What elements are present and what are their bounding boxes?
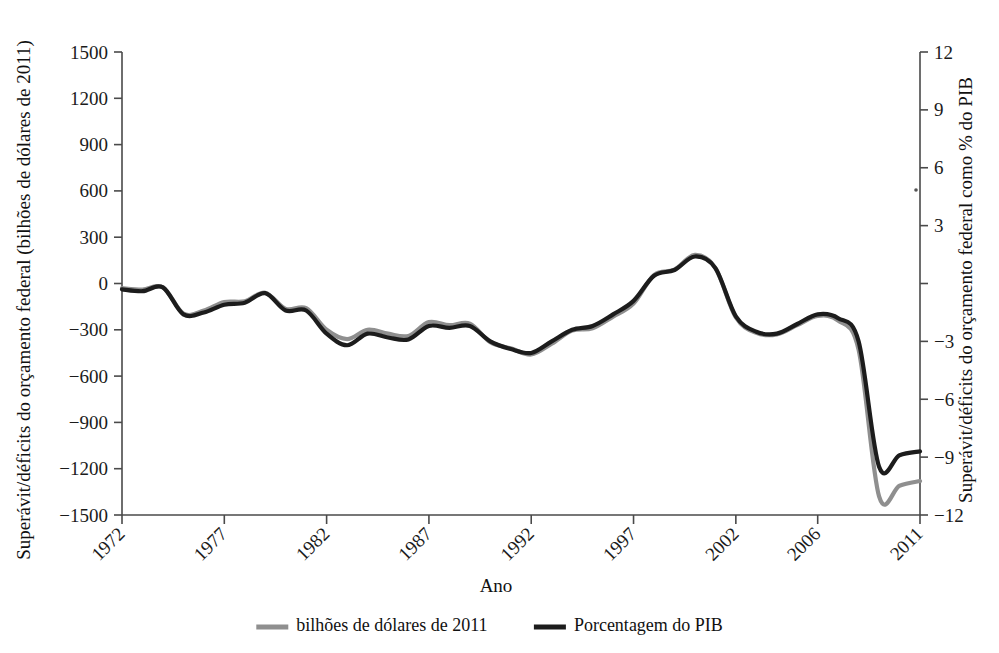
right-tick-label: −12 xyxy=(934,505,964,526)
left-tick-label: −300 xyxy=(69,319,108,340)
right-tick-label: 9 xyxy=(934,99,944,120)
right-axis-title: Superávit/déficits do orçamento federal … xyxy=(955,77,976,503)
x-tick-label: 2006 xyxy=(783,523,825,565)
legend-label-1: Porcentagem do PIB xyxy=(574,615,723,635)
left-tick-label: 900 xyxy=(80,134,109,155)
line-chart: 150012009006003000−300−600−900−1200−1500… xyxy=(0,0,999,653)
left-tick-label: 0 xyxy=(99,273,109,294)
x-tick-label: 2002 xyxy=(701,523,743,565)
x-tick-label: 1997 xyxy=(599,523,641,565)
series-group xyxy=(122,255,920,505)
figure-container: 150012009006003000−300−600−900−1200−1500… xyxy=(0,0,999,653)
x-axis-ticks: 197219771982198719921997200220062011 xyxy=(87,515,927,565)
left-tick-label: 1500 xyxy=(70,42,108,63)
right-tick-label: −6 xyxy=(934,389,954,410)
left-tick-label: −1200 xyxy=(59,458,108,479)
series-line-0 xyxy=(122,255,920,505)
right-tick-label: −3 xyxy=(934,331,954,352)
left-tick-label: 1200 xyxy=(70,88,108,109)
left-tick-label: −1500 xyxy=(59,505,108,526)
left-axis-title: Superávit/déficits do orçamento federal … xyxy=(13,40,35,560)
right-tick-label: 12 xyxy=(934,42,953,63)
speck-artifact xyxy=(914,188,918,192)
x-tick-label: 1987 xyxy=(394,523,436,565)
legend-label-0: bilhões de dólares de 2011 xyxy=(296,615,487,635)
axes-group xyxy=(122,52,920,515)
x-tick-label: 1972 xyxy=(87,523,129,565)
left-axis-ticks: 150012009006003000−300−600−900−1200−1500 xyxy=(59,42,122,526)
series-line-1 xyxy=(122,256,920,473)
chart-legend: bilhões de dólares de 2011Porcentagem do… xyxy=(256,615,723,635)
left-tick-label: −600 xyxy=(69,366,108,387)
x-tick-label: 1982 xyxy=(292,523,334,565)
left-tick-label: 300 xyxy=(80,227,109,248)
right-tick-label: −9 xyxy=(934,447,954,468)
right-tick-label: 6 xyxy=(934,157,944,178)
x-axis-title: Ano xyxy=(480,575,513,596)
x-tick-label: 2011 xyxy=(886,523,927,564)
x-tick-label: 1992 xyxy=(496,523,538,565)
x-tick-label: 1977 xyxy=(189,523,231,565)
right-tick-label: 3 xyxy=(934,215,944,236)
left-tick-label: −900 xyxy=(69,412,108,433)
left-tick-label: 600 xyxy=(80,180,109,201)
